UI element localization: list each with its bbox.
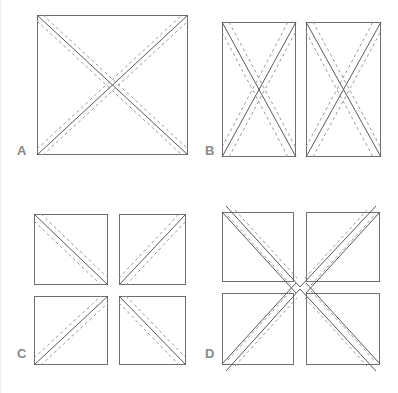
panel-label-a: A xyxy=(17,143,27,158)
panel-label-d: D xyxy=(205,346,214,361)
quilt-panel-figure: A B xyxy=(0,0,398,393)
panel-label-b: B xyxy=(205,143,214,158)
panel-label-c: C xyxy=(17,346,27,361)
